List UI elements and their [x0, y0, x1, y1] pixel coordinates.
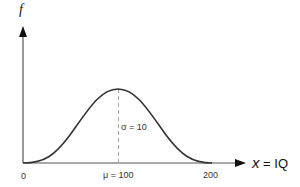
x-axis-label-rest: = IQ — [260, 156, 289, 171]
x-axis-label: x = IQ — [252, 154, 288, 171]
x-axis-arrow-icon — [235, 159, 246, 167]
x-axis-variable: x — [252, 154, 260, 171]
sigma-annotation: σ = 10 — [121, 122, 147, 132]
tick-label-mean: μ = 100 — [103, 170, 133, 180]
tick-label-200: 200 — [203, 170, 218, 180]
tick-label-0: 0 — [21, 171, 26, 181]
bell-curve — [23, 89, 212, 163]
y-axis-arrow-icon — [19, 26, 27, 37]
y-axis-label: f — [19, 2, 23, 18]
